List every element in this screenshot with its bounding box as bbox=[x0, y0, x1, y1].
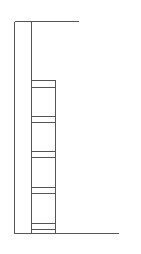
line-diagram bbox=[0, 0, 141, 254]
